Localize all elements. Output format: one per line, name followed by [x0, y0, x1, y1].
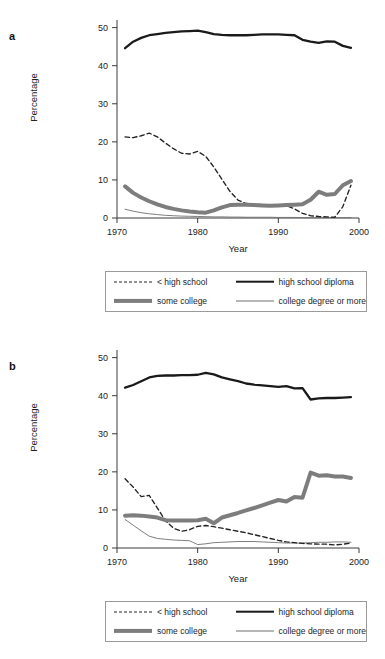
- y-tick-label: 40: [98, 391, 108, 401]
- x-ticks-a: 1970198019902000: [107, 218, 369, 237]
- series-line: [125, 181, 351, 213]
- series-line: [125, 473, 351, 524]
- y-tick-label: 50: [98, 23, 108, 33]
- y-tick-label: 30: [98, 99, 108, 109]
- legend-swatch-gray-icon: [114, 296, 152, 306]
- x-ticks-b: 1970198019902000: [107, 548, 369, 567]
- legend-b: < high school high school diploma some c…: [105, 601, 367, 642]
- x-axis-title-b: Year: [117, 573, 359, 584]
- plot-area-a: 1970198019902000 01020304050 Percentage …: [0, 0, 385, 265]
- legend-item-college-degree-or-more: college degree or more: [232, 626, 366, 636]
- chart-panel-a: a 1970198019902000 01020304050 Percentag…: [0, 0, 385, 329]
- legend-item-college-degree-or-more: college degree or more: [232, 296, 366, 306]
- y-tick-label: 10: [98, 505, 108, 515]
- legend-swatch-gray-icon: [114, 626, 152, 636]
- x-tick-label: 1970: [107, 227, 127, 237]
- legend-swatch-thick-icon: [236, 607, 274, 617]
- series-line: [125, 373, 351, 400]
- plot-area-b: 1970198019902000 01020304050 Percentage …: [0, 330, 385, 595]
- legend-swatch-thin-icon: [236, 296, 274, 306]
- x-tick-label: 1980: [188, 557, 208, 567]
- y-ticks-b: 01020304050: [98, 353, 117, 553]
- y-tick-label: 10: [98, 175, 108, 185]
- legend-label: some college: [157, 296, 207, 306]
- legend-item-some-college: some college: [106, 296, 232, 306]
- legend-label: < high school: [157, 607, 207, 617]
- y-axis-title-a: Percentage: [28, 43, 39, 153]
- y-axis-title-b: Percentage: [28, 373, 39, 483]
- legend-item-high-school-diploma: high school diploma: [232, 277, 366, 287]
- chart-panel-b: b 1970198019902000 01020304050 Percentag…: [0, 330, 385, 659]
- legend-label: college degree or more: [279, 626, 366, 636]
- y-tick-label: 0: [103, 543, 108, 553]
- legend-item-some-college: some college: [106, 626, 232, 636]
- legend-swatch-dashed-icon: [114, 607, 152, 617]
- legend-label: high school diploma: [279, 607, 354, 617]
- x-tick-label: 1990: [268, 227, 288, 237]
- series-line: [125, 31, 351, 49]
- y-tick-label: 40: [98, 61, 108, 71]
- legend-label: high school diploma: [279, 277, 354, 287]
- y-tick-label: 50: [98, 353, 108, 363]
- x-tick-label: 2000: [349, 227, 369, 237]
- x-tick-label: 2000: [349, 557, 369, 567]
- legend-a: < high school high school diploma some c…: [105, 271, 367, 312]
- legend-label: some college: [157, 626, 207, 636]
- plot-svg-b: 1970198019902000 01020304050: [0, 330, 385, 595]
- y-tick-label: 20: [98, 137, 108, 147]
- series-group-a: [125, 31, 351, 218]
- axes-a: [117, 20, 359, 218]
- legend-item-less-than-high-school: < high school: [106, 277, 232, 287]
- x-tick-label: 1980: [188, 227, 208, 237]
- y-tick-label: 20: [98, 467, 108, 477]
- legend-item-less-than-high-school: < high school: [106, 607, 232, 617]
- legend-swatch-thin-icon: [236, 626, 274, 636]
- x-tick-label: 1990: [268, 557, 288, 567]
- series-line: [125, 519, 351, 544]
- legend-label: college degree or more: [279, 296, 366, 306]
- legend-swatch-thick-icon: [236, 277, 274, 287]
- legend-swatch-dashed-icon: [114, 277, 152, 287]
- y-tick-label: 30: [98, 429, 108, 439]
- x-tick-label: 1970: [107, 557, 127, 567]
- y-tick-label: 0: [103, 213, 108, 223]
- legend-item-high-school-diploma: high school diploma: [232, 607, 366, 617]
- legend-label: < high school: [157, 277, 207, 287]
- series-group-b: [125, 373, 351, 545]
- y-ticks-a: 01020304050: [98, 23, 117, 223]
- plot-svg-a: 1970198019902000 01020304050: [0, 0, 385, 265]
- x-axis-title-a: Year: [117, 243, 359, 254]
